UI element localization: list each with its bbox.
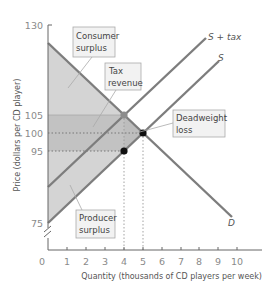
x-axis-title: Quantity (thousands of CD players per we… bbox=[81, 272, 262, 281]
x-tick-9: 9 bbox=[215, 256, 221, 267]
x-tick-3: 3 bbox=[102, 256, 108, 267]
svg-text:surplus: surplus bbox=[79, 225, 110, 235]
tax-buyer-price-point bbox=[120, 111, 127, 118]
y-tick-100: 100 bbox=[25, 128, 43, 139]
x-tick-2: 2 bbox=[83, 256, 89, 267]
x-tick-1: 1 bbox=[64, 256, 70, 267]
svg-text:Deadweight: Deadweight bbox=[176, 113, 228, 123]
x-tick-10: 10 bbox=[231, 256, 243, 267]
svg-text:revenue: revenue bbox=[108, 78, 143, 88]
deadweight-loss-label: Deadweight loss bbox=[173, 110, 228, 137]
y-tick-105: 105 bbox=[25, 110, 43, 121]
y-axis-title: Price (dollars per CD player) bbox=[13, 79, 22, 192]
x-tick-6: 6 bbox=[159, 256, 165, 267]
svg-text:loss: loss bbox=[176, 125, 193, 135]
supply-tax-label: S + tax bbox=[208, 32, 242, 42]
y-tick-95: 95 bbox=[31, 146, 43, 157]
y-tick-130: 130 bbox=[25, 20, 43, 31]
x-tick-8: 8 bbox=[196, 256, 202, 267]
svg-text:surplus: surplus bbox=[76, 43, 107, 53]
svg-text:Consumer: Consumer bbox=[76, 31, 120, 41]
x-tick-0: 0 bbox=[39, 256, 45, 267]
tax-seller-price-point bbox=[120, 147, 127, 154]
deadweight-loss-leader bbox=[136, 123, 173, 133]
producer-surplus-label: Producer surplus bbox=[76, 210, 117, 238]
svg-text:Producer: Producer bbox=[79, 213, 117, 223]
consumer-surplus-label: Consumer surplus bbox=[73, 27, 120, 57]
tax-incidence-chart: 130 105 100 95 75 0 1 2 3 4 5 6 7 8 9 10… bbox=[0, 0, 270, 294]
supply-label: S bbox=[218, 53, 224, 63]
tax-revenue-label: Tax revenue bbox=[105, 63, 143, 90]
y-tick-75: 75 bbox=[31, 218, 43, 229]
x-tick-7: 7 bbox=[178, 256, 184, 267]
demand-label: D bbox=[228, 218, 235, 228]
svg-text:Tax: Tax bbox=[108, 66, 123, 76]
x-tick-5: 5 bbox=[140, 256, 146, 267]
x-tick-4: 4 bbox=[121, 256, 127, 267]
